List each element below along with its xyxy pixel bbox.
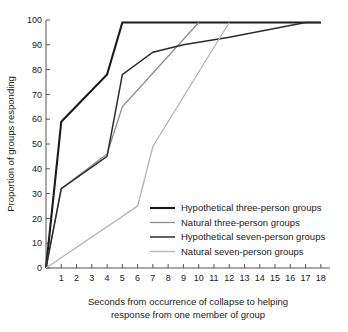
y-tick-label: 0 (37, 263, 42, 273)
x-tick-label: 5 (120, 273, 125, 283)
x-tick-label: 2 (74, 273, 79, 283)
y-tick-label: 50 (32, 139, 42, 149)
y-tick-label: 10 (32, 238, 42, 248)
x-tick-label: 13 (239, 273, 249, 283)
x-tick-label: 3 (89, 273, 94, 283)
y-tick-label: 80 (32, 65, 42, 75)
legend-label: Hypothetical seven-person groups (181, 231, 325, 242)
x-axis-title-line2: response from one member of group (111, 309, 265, 320)
x-tick-label: 1 (59, 273, 64, 283)
y-tick-label: 90 (32, 40, 42, 50)
y-tick-label: 60 (32, 114, 42, 124)
x-tick-label: 6 (135, 273, 140, 283)
y-tick-label: 20 (32, 214, 42, 224)
x-tick-label: 11 (209, 273, 218, 283)
x-tick-label: 17 (301, 273, 311, 283)
line-chart: 0102030405060708090100 12345678910111213… (0, 0, 348, 332)
y-tick-label: 70 (32, 90, 42, 100)
x-tick-label: 16 (285, 273, 295, 283)
y-axis-title: Proportion of groups responding (5, 76, 16, 212)
x-tick-label: 9 (181, 273, 186, 283)
x-tick-label: 12 (224, 273, 234, 283)
chart-figure: 0102030405060708090100 12345678910111213… (0, 0, 348, 332)
x-tick-label: 18 (316, 273, 326, 283)
x-tick-label: 8 (166, 273, 171, 283)
y-tick-label: 40 (32, 164, 42, 174)
y-tick-label: 100 (27, 15, 42, 25)
x-tick-label: 4 (105, 273, 110, 283)
x-tick-label: 7 (150, 273, 155, 283)
legend-label: Natural three-person groups (181, 217, 300, 228)
x-axis-title-line1: Seconds from occurrence of collapse to h… (88, 296, 288, 307)
x-tick-label: 15 (270, 273, 280, 283)
legend-label: Hypothetical three-person groups (181, 202, 322, 213)
x-tick-label: 14 (255, 273, 265, 283)
legend-label: Natural seven-person groups (181, 246, 304, 257)
x-tick-label: 10 (194, 273, 204, 283)
y-tick-label: 30 (32, 189, 42, 199)
